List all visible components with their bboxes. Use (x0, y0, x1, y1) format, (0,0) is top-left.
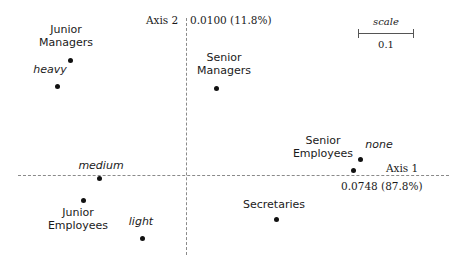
scale-legend-value: 0.1 (358, 39, 414, 50)
data-point-secretaries[interactable] (274, 217, 279, 222)
axis-2-vertical-line (186, 18, 187, 255)
data-point-junior-managers[interactable] (68, 58, 73, 63)
scale-legend-title: scale (358, 16, 414, 27)
data-point-senior-employees[interactable] (351, 168, 356, 173)
point-label-senior-employees-line2: Employees (293, 148, 353, 161)
scale-bar-line (358, 33, 414, 34)
point-label-junior-managers-line2: Managers (39, 37, 93, 50)
point-label-none: none (365, 139, 392, 152)
point-label-light: light (129, 216, 153, 229)
point-label-junior-employees: Junior Employees (48, 207, 108, 233)
scale-bar-tick-left (358, 29, 359, 38)
point-label-junior-employees-line2: Employees (48, 220, 108, 233)
point-label-senior-managers: Senior Managers (197, 52, 251, 78)
axis-2-caption: 0.0100 (11.8%) (190, 14, 272, 26)
axis-1-horizontal-line (18, 175, 449, 176)
data-point-junior-employees[interactable] (81, 198, 86, 203)
scale-legend-bar (358, 29, 414, 38)
data-point-none[interactable] (358, 157, 363, 162)
axis-1-label: Axis 1 (386, 162, 418, 174)
scale-legend: scale 0.1 (358, 16, 414, 50)
axis-1-caption: 0.0748 (87.8%) (341, 180, 423, 192)
data-point-senior-managers[interactable] (214, 86, 219, 91)
point-label-medium: medium (78, 160, 123, 173)
data-point-medium[interactable] (97, 176, 102, 181)
data-point-light[interactable] (140, 236, 145, 241)
correspondence-analysis-plot: Axis 2 0.0100 (11.8%) Axis 1 0.0748 (87.… (0, 0, 449, 262)
point-label-senior-employees: Senior Employees (293, 135, 353, 161)
axis-2-label: Axis 2 (146, 14, 178, 26)
point-label-secretaries: Secretaries (243, 199, 305, 212)
data-point-heavy[interactable] (55, 84, 60, 89)
point-label-heavy: heavy (33, 64, 67, 77)
scale-bar-tick-right (413, 29, 414, 38)
point-label-senior-managers-line2: Managers (197, 65, 251, 78)
point-label-junior-managers: Junior Managers (39, 24, 93, 50)
